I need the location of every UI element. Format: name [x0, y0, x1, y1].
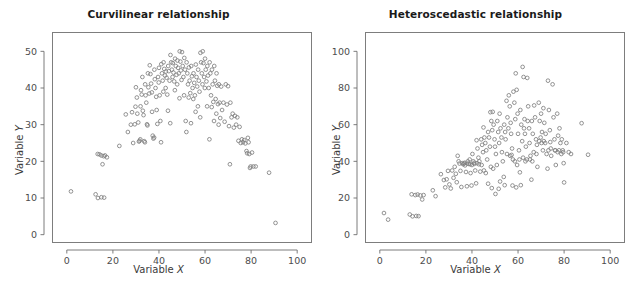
data-point	[217, 123, 221, 127]
data-point	[531, 132, 535, 136]
data-point	[460, 185, 464, 189]
y-axis-title-var: Y	[331, 125, 342, 131]
data-point	[504, 137, 508, 141]
data-point	[503, 130, 507, 134]
data-point	[540, 130, 544, 134]
data-point	[519, 183, 523, 187]
data-point	[198, 90, 202, 94]
data-point	[453, 165, 457, 169]
data-point	[194, 63, 198, 67]
data-point	[158, 93, 162, 97]
data-point	[530, 119, 534, 123]
data-point	[204, 68, 208, 72]
data-point	[157, 81, 161, 85]
data-point	[456, 154, 460, 158]
data-point	[161, 79, 165, 83]
data-point	[156, 75, 160, 79]
data-point	[551, 82, 555, 86]
data-point	[518, 158, 522, 162]
data-point	[542, 106, 546, 110]
y-axis-title-var: Y	[14, 125, 25, 131]
data-point	[562, 161, 566, 165]
data-point	[214, 112, 218, 116]
data-point	[488, 145, 492, 149]
data-point	[553, 137, 557, 141]
data-point	[556, 134, 560, 138]
data-point	[207, 86, 211, 90]
data-point	[117, 144, 121, 148]
data-point	[519, 123, 523, 127]
data-point	[537, 101, 541, 105]
data-point	[532, 104, 536, 108]
data-point	[238, 125, 242, 129]
data-point	[200, 71, 204, 75]
data-point	[474, 181, 478, 185]
y-tick-label: 20	[25, 156, 37, 167]
data-point	[476, 147, 480, 151]
data-point	[455, 180, 459, 184]
data-point	[210, 105, 214, 109]
data-point	[552, 115, 556, 119]
data-point	[483, 136, 487, 140]
data-point	[509, 132, 513, 136]
data-point	[209, 93, 213, 97]
data-point	[166, 64, 170, 68]
data-point	[205, 80, 209, 84]
data-point	[214, 97, 218, 101]
data-point	[215, 71, 219, 75]
data-point	[189, 121, 193, 125]
data-point	[179, 69, 183, 73]
data-point	[507, 126, 511, 130]
data-point	[501, 159, 505, 163]
data-point	[218, 116, 222, 120]
data-point	[517, 148, 521, 152]
data-point	[246, 136, 250, 140]
data-point	[446, 169, 450, 173]
data-point	[545, 152, 549, 156]
data-point	[203, 57, 207, 61]
y-tick-label: 30	[25, 119, 37, 130]
data-point	[231, 112, 235, 116]
data-point	[548, 140, 552, 144]
data-point	[499, 126, 503, 130]
data-point	[124, 113, 128, 117]
data-point	[185, 130, 189, 134]
data-point	[274, 221, 278, 225]
data-point	[503, 183, 507, 187]
data-point	[141, 109, 145, 113]
data-point	[188, 79, 192, 83]
data-point	[185, 71, 189, 75]
data-point	[496, 130, 500, 134]
data-point	[203, 86, 207, 90]
data-point	[522, 126, 526, 130]
data-point	[196, 104, 200, 108]
data-point	[227, 124, 231, 128]
data-point	[181, 64, 185, 68]
data-point	[208, 137, 212, 141]
data-point	[410, 192, 414, 196]
data-point	[175, 82, 179, 86]
data-point	[213, 79, 217, 83]
data-point	[182, 93, 186, 97]
data-point	[541, 148, 545, 152]
data-point	[514, 186, 518, 190]
data-point	[482, 126, 486, 130]
data-point	[229, 101, 233, 105]
data-point	[159, 140, 163, 144]
data-point	[452, 176, 456, 180]
data-point	[516, 132, 520, 136]
data-point	[134, 105, 138, 109]
data-point	[192, 71, 196, 75]
data-point	[459, 169, 463, 173]
data-point	[502, 175, 506, 179]
data-point	[166, 109, 170, 113]
data-point	[130, 110, 134, 114]
data-point	[201, 82, 205, 86]
data-point	[547, 108, 551, 112]
data-point	[521, 65, 525, 69]
data-point	[493, 137, 497, 141]
data-point	[511, 184, 515, 188]
data-point	[484, 148, 488, 152]
data-point	[535, 143, 539, 147]
data-point	[526, 104, 530, 108]
